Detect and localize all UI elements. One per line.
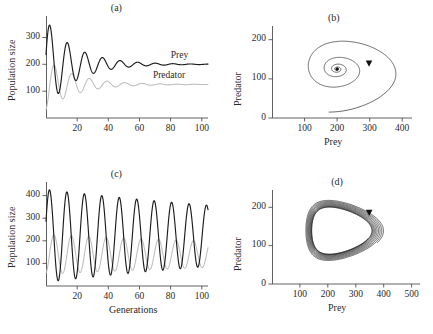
- x-tick-label: 200: [314, 289, 342, 299]
- x-axis-title-d: Prey: [328, 302, 346, 313]
- panel-c: [46, 182, 210, 288]
- x-tick-label: 100: [188, 291, 216, 301]
- panel-c-plot: [46, 182, 210, 288]
- prey-legend-label: Prey: [171, 50, 188, 60]
- y-axis-title-b: Predator: [232, 72, 243, 106]
- x-tick-label: 80: [157, 291, 185, 301]
- x-tick-label: 200: [323, 123, 351, 133]
- y-tick-label: 200: [238, 33, 266, 43]
- x-tick-label: 40: [94, 291, 122, 301]
- panel-label-b: (b): [328, 12, 340, 23]
- y-axis-title-a: Population size: [6, 40, 17, 101]
- panel-a-plot: [46, 16, 210, 120]
- x-tick-label: 60: [125, 291, 153, 301]
- x-tick-label: 100: [286, 289, 314, 299]
- y-tick-label: 0: [238, 278, 266, 288]
- x-tick-label: 400: [388, 123, 416, 133]
- y-tick-label: 0: [238, 112, 266, 122]
- x-tick-label: 100: [291, 123, 319, 133]
- predator-legend-label: Predator: [153, 70, 185, 80]
- panel-label-d: (d): [331, 176, 343, 187]
- x-tick-label: 100: [188, 123, 216, 133]
- x-tick-label: 300: [356, 123, 384, 133]
- x-tick-label: 20: [63, 123, 91, 133]
- direction-arrow-icon: [366, 60, 373, 66]
- panel-b-plot: [272, 26, 414, 120]
- x-tick-label: 300: [342, 289, 370, 299]
- x-tick-label: 80: [157, 123, 185, 133]
- equilibrium-point: [336, 67, 339, 70]
- phase-trajectory: [308, 41, 396, 112]
- panel-d-plot: [272, 190, 422, 286]
- x-axis-title-b: Prey: [324, 136, 342, 147]
- x-tick-label: 500: [398, 289, 426, 299]
- panel-a: [46, 16, 210, 120]
- x-tick-label: 40: [94, 123, 122, 133]
- x-axis-title-c: Generations: [109, 304, 157, 315]
- x-tick-label: 400: [370, 289, 398, 299]
- y-axis-title-c: Population size: [6, 207, 17, 268]
- x-tick-label: 60: [125, 123, 153, 133]
- panel-d: [272, 190, 422, 286]
- panel-label-c: (c): [111, 168, 122, 179]
- y-tick-label: 400: [12, 189, 40, 199]
- predator-prey-figure: (a)10020030020406080100Population sizePr…: [0, 0, 433, 334]
- y-axis-title-d: Predator: [232, 237, 243, 271]
- y-tick-label: 200: [238, 201, 266, 211]
- x-tick-label: 20: [63, 291, 91, 301]
- panel-label-a: (a): [111, 2, 122, 13]
- panel-b: [272, 26, 414, 120]
